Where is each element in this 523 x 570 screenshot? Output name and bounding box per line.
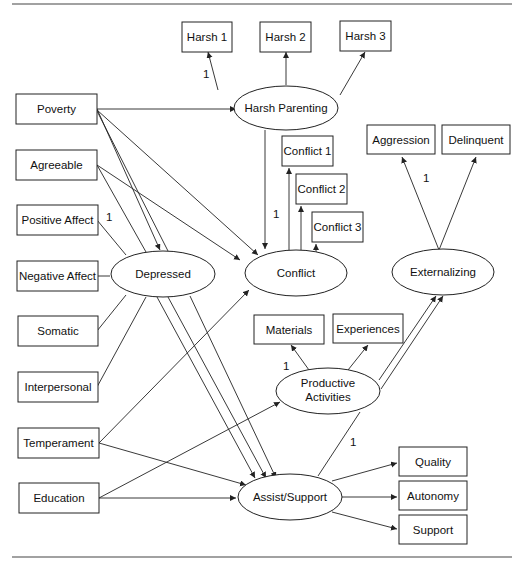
observed-conflict-1: Conflict 1 [282,136,333,166]
observed-temperament: Temperament [18,428,99,458]
observed-materials: Materials [254,315,324,344]
svg-text:Depressed: Depressed [135,268,191,280]
svg-text:Poverty: Poverty [37,103,76,115]
observed-harsh-2: Harsh 2 [260,22,311,52]
svg-text:Activities: Activities [305,391,351,403]
observed-conflict-3: Conflict 3 [312,212,363,242]
observed-negative-affect: Negative Affect [17,261,98,291]
observed-conflict-2: Conflict 2 [296,174,347,204]
svg-text:Conflict: Conflict [277,267,316,279]
svg-text:Harsh 3: Harsh 3 [345,30,385,42]
observed-harsh-1: Harsh 1 [182,22,232,52]
svg-text:Agreeable: Agreeable [30,159,82,171]
svg-text:Interpersonal: Interpersonal [24,381,91,393]
latent-assist-support: Assist/Support [238,474,342,520]
svg-text:Harsh 1: Harsh 1 [187,31,227,43]
observed-aggression: Aggression [367,125,435,154]
svg-text:Harsh 2: Harsh 2 [265,31,305,43]
svg-text:Externalizing: Externalizing [410,266,476,278]
svg-text:Positive Affect: Positive Affect [21,214,94,226]
svg-text:Aggression: Aggression [372,134,430,146]
svg-text:Materials: Materials [266,324,313,336]
observed-delinquent: Delinquent [442,125,510,154]
loading-productive-assist: 1 [350,436,356,448]
observed-quality: Quality [399,447,467,476]
svg-text:Productive: Productive [301,377,355,389]
observed-interpersonal: Interpersonal [18,372,98,402]
latent-conflict: Conflict [245,250,347,296]
svg-text:Delinquent: Delinquent [449,134,505,146]
svg-text:Autonomy: Autonomy [407,490,459,502]
latent-depressed: Depressed [111,251,215,297]
sem-diagram: Harsh 1 Harsh 2 Harsh 3 Poverty Agreeabl… [0,0,523,570]
loading-harsh: 1 [203,68,209,80]
svg-text:Conflict 3: Conflict 3 [314,221,362,233]
svg-text:Support: Support [413,524,454,536]
latent-externalizing: Externalizing [392,249,494,295]
observed-poverty: Poverty [16,94,97,124]
svg-text:Harsh Parenting: Harsh Parenting [244,102,327,114]
svg-text:Negative Affect: Negative Affect [19,270,97,282]
loading-materials: 1 [283,360,289,372]
latent-productive-activities: Productive Activities [276,368,380,414]
loading-aggression: 1 [423,172,429,184]
svg-text:Conflict 2: Conflict 2 [298,183,346,195]
svg-text:Temperament: Temperament [23,437,94,449]
latent-harsh-parenting: Harsh Parenting [234,86,338,130]
observed-harsh-3: Harsh 3 [340,21,391,51]
observed-experiences: Experiences [333,314,403,343]
loading-positive-affect: 1 [106,211,112,223]
observed-education: Education [19,483,99,513]
observed-agreeable: Agreeable [16,150,97,180]
observed-somatic: Somatic [18,316,98,346]
svg-text:Quality: Quality [415,456,451,468]
svg-text:Experiences: Experiences [336,323,400,335]
svg-text:Conflict 1: Conflict 1 [284,145,332,157]
svg-text:Education: Education [33,492,84,504]
svg-text:Assist/Support: Assist/Support [253,491,328,503]
observed-positive-affect: Positive Affect [17,205,98,235]
svg-text:Somatic: Somatic [37,325,79,337]
observed-autonomy: Autonomy [399,481,467,510]
loading-conflict: 1 [273,208,279,220]
observed-support: Support [399,515,467,544]
